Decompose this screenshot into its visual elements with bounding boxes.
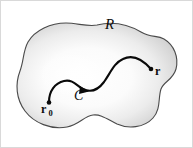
figure-container: R C r 0 r bbox=[0, 0, 193, 148]
start-point-label-subscript: 0 bbox=[49, 108, 53, 118]
end-point-marker bbox=[149, 67, 154, 72]
region-curve-diagram: R C r 0 r bbox=[1, 1, 193, 148]
start-point-marker bbox=[47, 100, 52, 105]
end-point-label: r bbox=[155, 64, 161, 78]
curve-label: C bbox=[74, 88, 84, 103]
region-label: R bbox=[104, 16, 114, 32]
start-point-label: r bbox=[41, 102, 47, 116]
